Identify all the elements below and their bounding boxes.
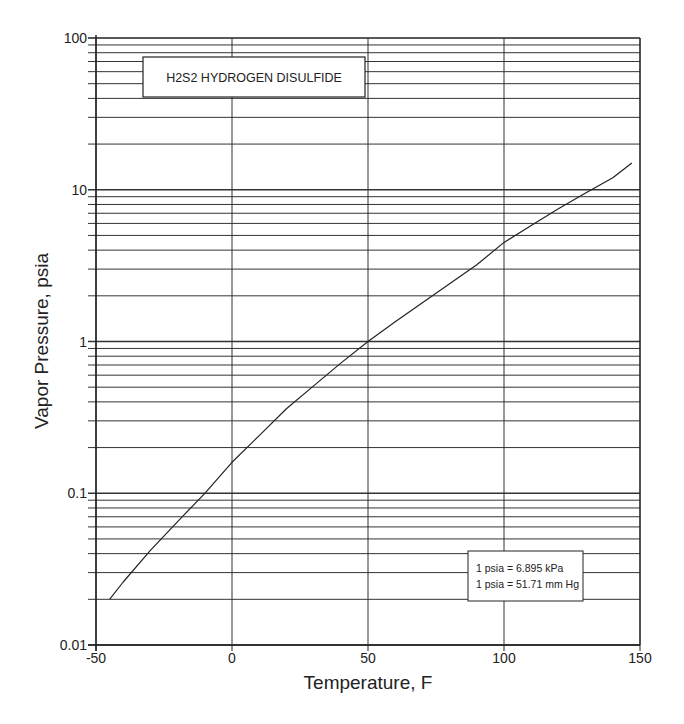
- y-tick-label: 1: [79, 334, 87, 350]
- y-tick-label: 0.01: [60, 637, 87, 653]
- curve-line: [110, 163, 632, 599]
- y-tick-label: 100: [64, 30, 88, 46]
- vapor-pressure-chart: 0.010.1110100 -50050100150 H2S2 HYDROGEN…: [0, 0, 684, 724]
- x-tick-label: 150: [628, 650, 652, 666]
- x-tick-label: -50: [86, 650, 106, 666]
- y-axis-title: Vapor Pressure, psia: [31, 253, 52, 429]
- chart-title: H2S2 HYDROGEN DISULFIDE: [166, 71, 342, 85]
- title-box: H2S2 HYDROGEN DISULFIDE: [143, 57, 365, 97]
- x-tick-label: 100: [492, 650, 516, 666]
- conversion-mmhg: 1 psia = 51.71 mm Hg: [476, 578, 579, 590]
- y-tick-label: 0.1: [68, 485, 88, 501]
- conversion-kpa: 1 psia = 6.895 kPa: [476, 562, 563, 574]
- x-axis-title: Temperature, F: [304, 672, 433, 693]
- x-axis-ticks: -50050100150: [86, 645, 652, 666]
- vapor-pressure-curve: [110, 163, 632, 599]
- conversion-box: 1 psia = 6.895 kPa 1 psia = 51.71 mm Hg: [468, 551, 583, 601]
- x-tick-label: 0: [228, 650, 236, 666]
- y-axis-ticks: 0.010.1110100: [60, 30, 87, 653]
- x-tick-label: 50: [360, 650, 376, 666]
- y-tick-label: 10: [71, 182, 87, 198]
